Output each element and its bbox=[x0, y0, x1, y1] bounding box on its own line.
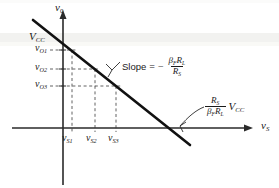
y-tick-label-vo2: vO2 bbox=[35, 62, 47, 73]
y-tick-label-vo3: vO3 bbox=[35, 79, 47, 90]
x-intercept-annotation: RS βFRL VCC bbox=[205, 96, 244, 118]
x-intercept-fraction: RS βFRL bbox=[205, 96, 226, 118]
slope-word: Slope bbox=[122, 62, 146, 72]
y-axis-label: v0 bbox=[55, 2, 63, 15]
x-axis bbox=[12, 125, 253, 132]
slope-numerator: βFRL bbox=[167, 56, 188, 66]
x-axis-label: vS bbox=[261, 120, 269, 133]
x-tick-label-vs1: vS1 bbox=[62, 133, 73, 144]
x-intercept-multiplier: VCC bbox=[229, 101, 245, 114]
load-line bbox=[33, 20, 190, 145]
x-intercept-denominator: βFRL bbox=[205, 106, 226, 117]
y-tick-label-vo1: vO1 bbox=[35, 43, 47, 54]
slope-annotation: Slope = − βFRL RS bbox=[122, 56, 187, 78]
transfer-characteristic-figure: v0 vS VCC vO1 vO2 vO3 vS1 vS2 vS3 Slope … bbox=[0, 0, 279, 188]
x-tick-label-vs3: vS3 bbox=[108, 133, 119, 144]
y-axis bbox=[60, 10, 67, 185]
slope-minus-sign: − bbox=[158, 62, 164, 72]
slope-denominator: RS bbox=[171, 66, 183, 77]
slope-equals: = bbox=[149, 62, 155, 72]
plot-canvas bbox=[0, 0, 279, 188]
x-tick-label-vs2: vS2 bbox=[86, 133, 97, 144]
slope-leader-line bbox=[106, 62, 120, 77]
slope-fraction: βFRL RS bbox=[167, 56, 188, 78]
x-intercept-numerator: RS bbox=[209, 96, 221, 106]
